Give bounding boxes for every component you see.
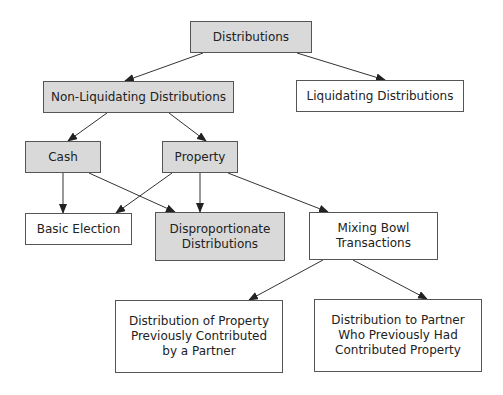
edge-property-mixing-bowl — [228, 173, 328, 212]
edge-non-liquidating-cash — [68, 113, 107, 141]
edge-distributions-non-liquidating — [125, 53, 203, 81]
node-non-liquidating-distributions: Non-Liquidating Distributions — [43, 81, 234, 113]
edge-mixing-bowl-dist-to-partner — [353, 260, 427, 299]
node-disproportionate-distributions: Disproportionate Distributions — [155, 212, 285, 261]
edge-mixing-bowl-dist-of-property — [249, 260, 323, 300]
edge-cash-disproportionate — [89, 173, 175, 212]
edge-non-liquidating-property — [169, 113, 206, 141]
node-cash: Cash — [25, 141, 101, 173]
node-distributions: Distributions — [190, 21, 312, 53]
node-property: Property — [162, 141, 238, 173]
node-distribution-to-partner: Distribution to Partner Who Previously H… — [314, 299, 482, 372]
node-mixing-bowl-transactions: Mixing Bowl Transactions — [309, 212, 438, 260]
node-basic-election: Basic Election — [25, 213, 132, 245]
node-liquidating-distributions: Liquidating Distributions — [296, 80, 464, 112]
node-distribution-of-property: Distribution of Property Previously Cont… — [115, 300, 283, 373]
edge-distributions-liquidating — [297, 53, 385, 80]
